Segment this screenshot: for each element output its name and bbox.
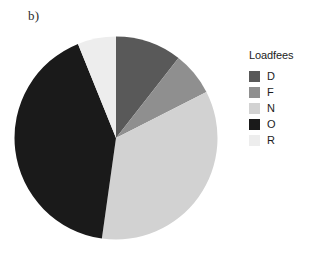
legend-swatch-icon <box>249 135 260 146</box>
legend-item: O <box>249 116 313 132</box>
legend-item-label: F <box>267 87 274 98</box>
legend-item: N <box>249 100 313 116</box>
legend-item: F <box>249 84 313 100</box>
pie-chart <box>14 36 218 240</box>
legend-items: DFNOR <box>249 68 313 148</box>
legend-item: R <box>249 132 313 148</box>
figure-panel: b) Loadfees DFNOR <box>0 0 318 266</box>
panel-label: b) <box>28 9 39 22</box>
legend-item-label: O <box>267 119 276 130</box>
legend-swatch-icon <box>249 103 260 114</box>
legend-item-label: D <box>267 71 275 82</box>
legend-swatch-icon <box>249 71 260 82</box>
legend: Loadfees DFNOR <box>249 50 313 148</box>
legend-swatch-icon <box>249 87 260 98</box>
legend-title: Loadfees <box>249 50 313 61</box>
pie-slices <box>15 37 218 240</box>
legend-item-label: N <box>267 103 275 114</box>
legend-swatch-icon <box>249 119 260 130</box>
pie-chart-svg <box>14 36 218 240</box>
legend-item: D <box>249 68 313 84</box>
legend-item-label: R <box>267 135 275 146</box>
